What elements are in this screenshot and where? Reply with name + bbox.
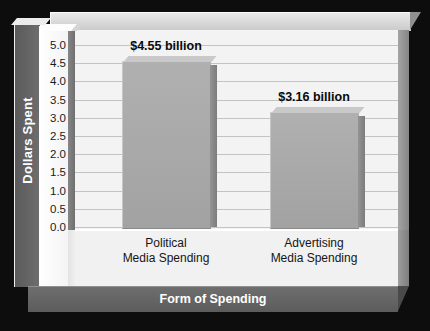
x-axis-category-label: AdvertisingMedia Spending xyxy=(239,236,389,266)
bar-top-bevel xyxy=(123,56,216,62)
y-axis-tick-label: 3.0 xyxy=(38,113,66,124)
y-axis-tick-label: 4.5 xyxy=(38,58,66,69)
x-axis-category-label-line: Media Spending xyxy=(239,251,389,266)
bar-value-label: $3.16 billion xyxy=(224,90,404,104)
bar-chart: $4.55 billion$3.16 billion PoliticalMedi… xyxy=(0,0,430,331)
chart-floor-right-bevel xyxy=(398,230,409,286)
y-axis-tick-label: 5.0 xyxy=(38,40,66,51)
y-axis-tick-label: 1.5 xyxy=(38,167,66,178)
x-axis-title: Form of Spending xyxy=(28,292,398,306)
y-axis-title: Dollars Spent xyxy=(20,25,35,257)
y-axis-tick-label: 1.0 xyxy=(38,186,66,197)
y-axis-tick-label: 0.0 xyxy=(38,222,66,233)
chart-frame-top-slab-bevel xyxy=(410,12,421,30)
x-axis-category-label-line: Advertising xyxy=(239,236,389,251)
y-axis-title-panel-cap xyxy=(11,18,51,25)
bar[interactable] xyxy=(122,61,211,229)
y-axis-tick-label: 2.0 xyxy=(38,149,66,160)
y-axis-tick-label: 4.0 xyxy=(38,76,66,87)
plot-area-right-bevel xyxy=(398,30,409,230)
bar-value-label: $4.55 billion xyxy=(76,39,256,53)
y-axis-title-panel: Dollars Spent xyxy=(14,24,39,287)
x-axis-category-label-line: Political xyxy=(91,236,241,251)
bar[interactable] xyxy=(270,112,359,229)
x-axis-title-band-bevel xyxy=(398,286,409,311)
y-axis-tick-label: 2.5 xyxy=(38,131,66,142)
y-axis-tick-strip: 5.04.54.03.53.02.52.01.51.00.50.0 xyxy=(38,30,68,286)
chart-floor-top-edge xyxy=(75,229,398,231)
x-axis-title-band: Form of Spending xyxy=(28,286,398,312)
y-axis-tick-strip-cap xyxy=(35,24,77,31)
bar-top-bevel xyxy=(271,107,364,113)
bar-side-bevel xyxy=(210,65,217,227)
x-axis-category-label-line: Media Spending xyxy=(91,251,241,266)
x-axis-category-label: PoliticalMedia Spending xyxy=(91,236,241,266)
chart-frame-top-slab xyxy=(50,12,411,31)
y-axis-tick-label: 0.5 xyxy=(38,204,66,215)
bar-side-bevel xyxy=(358,116,365,227)
y-axis-tick-label: 3.5 xyxy=(38,95,66,106)
